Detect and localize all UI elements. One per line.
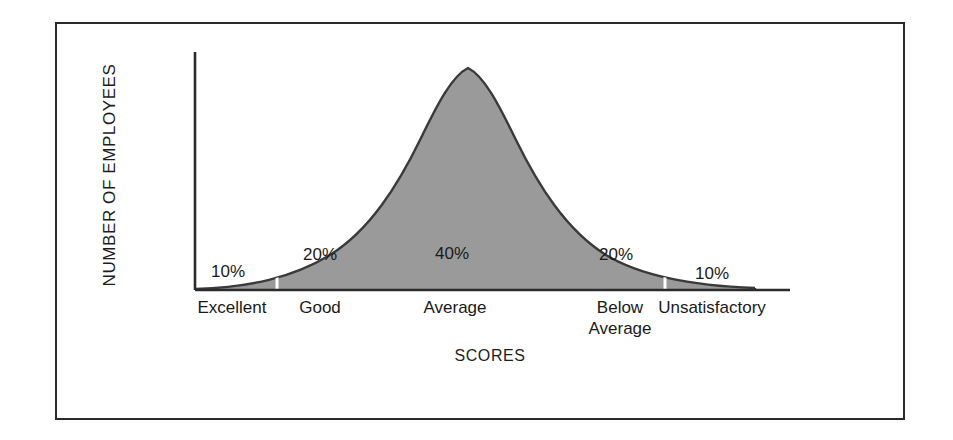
percent-label-below-average: 20% (599, 245, 633, 265)
y-axis-title: NUMBER OF EMPLOYEES (100, 60, 120, 290)
category-label-below-average: Below Average (588, 297, 651, 340)
curve-fill-path (196, 68, 755, 289)
percent-label-unsatisfactory: 10% (695, 264, 729, 284)
category-label-excellent-line1: Excellent (198, 297, 267, 318)
bell-curve-chart (0, 0, 953, 440)
category-label-below-average-line2: Average (588, 318, 651, 339)
percent-label-average: 40% (435, 244, 469, 264)
category-label-good: Good (299, 297, 341, 318)
category-label-excellent: Excellent (198, 297, 267, 318)
percent-label-excellent: 10% (211, 262, 245, 282)
performance-distribution-figure: NUMBER OF EMPLOYEES SCORES 10% 20% 40% 2… (0, 0, 953, 440)
category-label-average-line1: Average (423, 297, 486, 318)
category-label-unsatisfactory: Unsatisfactory (658, 297, 766, 318)
x-axis-title: SCORES (190, 347, 790, 365)
category-label-average: Average (423, 297, 486, 318)
category-label-unsatisfactory-line1: Unsatisfactory (658, 297, 766, 318)
bell-curve-area (196, 68, 755, 289)
category-label-below-average-line1: Below (588, 297, 651, 318)
percent-label-good: 20% (303, 245, 337, 265)
category-label-good-line1: Good (299, 297, 341, 318)
